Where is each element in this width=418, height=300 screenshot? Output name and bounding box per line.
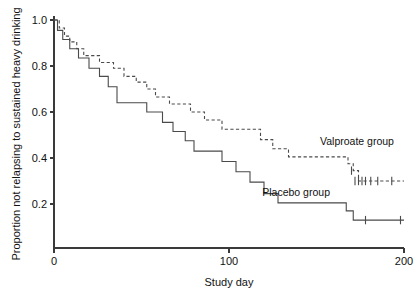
series-curves-group [54, 20, 404, 220]
x-tick-label: 100 [220, 255, 238, 267]
y-axis-title: Proportion not relapsing to sustained he… [10, 7, 22, 260]
axes-group [54, 16, 404, 248]
chart-canvas: 0.20.40.60.81.00100200 Valproate groupPl… [0, 0, 418, 300]
y-tick-label: 0.2 [32, 198, 47, 210]
y-tick-label: 0.6 [32, 106, 47, 118]
series-label-placebo-group: Placebo group [262, 186, 330, 198]
x-tick-label: 200 [395, 255, 413, 267]
y-tick-label: 0.8 [32, 60, 47, 72]
survival-curve-placebo-group [54, 20, 404, 220]
series-label-valproate-group: Valproate group [320, 135, 394, 147]
x-tick-label: 0 [51, 255, 57, 267]
x-axis-title: Study day [205, 276, 254, 288]
y-tick-label: 1.0 [32, 14, 47, 26]
survival-chart-figure: 0.20.40.60.81.00100200 Valproate groupPl… [0, 0, 418, 300]
survival-curve-valproate-group [54, 20, 404, 181]
y-tick-label: 0.4 [32, 152, 47, 164]
series-labels-group: Valproate groupPlacebo group [262, 135, 394, 198]
